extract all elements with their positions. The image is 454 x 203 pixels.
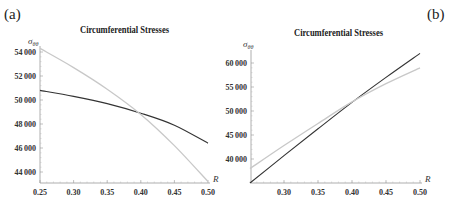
y-tick-label: 40 000 xyxy=(225,155,247,164)
chart-b: 40 00045 00050 00055 00060 0000.300.350.… xyxy=(225,39,431,197)
y-tick-label: 50 000 xyxy=(14,96,36,105)
x-tick-label: 0.45 xyxy=(167,188,181,197)
series-light-line xyxy=(250,68,420,169)
y-axis-label: σθθ xyxy=(28,36,38,47)
x-tick-label: 0.25 xyxy=(33,188,47,197)
y-axis-label: σθθ xyxy=(243,39,253,50)
x-axis-label: R xyxy=(424,174,431,184)
y-tick-label: 55 000 xyxy=(225,83,247,92)
series-light-line xyxy=(40,48,208,181)
series-dark-line xyxy=(250,53,420,183)
y-tick-label: 46 000 xyxy=(14,144,36,153)
x-tick-label: 0.30 xyxy=(277,188,291,197)
chart-a: 44 00046 00048 00050 00052 00054 0000.25… xyxy=(14,36,219,197)
x-tick-label: 0.30 xyxy=(67,188,81,197)
x-axis-label: R xyxy=(212,174,219,184)
y-tick-label: 48 000 xyxy=(14,120,36,129)
y-tick-label: 50 000 xyxy=(225,107,247,116)
charts-canvas: 44 00046 00048 00050 00052 00054 0000.25… xyxy=(0,0,454,203)
y-tick-label: 60 000 xyxy=(225,59,247,68)
x-tick-label: 0.35 xyxy=(311,188,325,197)
x-tick-label: 0.40 xyxy=(345,188,359,197)
x-tick-label: 0.50 xyxy=(413,188,427,197)
y-tick-label: 45 000 xyxy=(225,131,247,140)
x-tick-label: 0.35 xyxy=(100,188,114,197)
x-tick-label: 0.45 xyxy=(379,188,393,197)
y-tick-label: 44 000 xyxy=(14,168,36,177)
series-dark-line xyxy=(40,90,208,143)
x-tick-label: 0.50 xyxy=(201,188,215,197)
x-tick-label: 0.40 xyxy=(134,188,148,197)
y-tick-label: 54 000 xyxy=(14,48,36,57)
y-tick-label: 52 000 xyxy=(14,72,36,81)
